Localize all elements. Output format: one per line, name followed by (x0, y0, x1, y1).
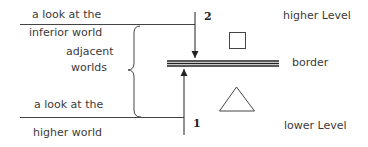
square-shape (230, 33, 246, 49)
label-border: border (292, 57, 328, 69)
triangle-shape (220, 87, 255, 111)
label-adjacent-bottom: worlds (71, 62, 107, 74)
diagram: a look at the inferior world adjacent wo… (0, 0, 368, 147)
label-look-inferior-top: a look at the (32, 9, 101, 21)
label-lower-level: lower Level (284, 120, 347, 132)
curly-brace (128, 26, 141, 117)
label-look-higher-bottom: higher world (33, 127, 102, 139)
arrow-up-number: 1 (193, 118, 201, 130)
label-look-higher-top: a look at the (34, 99, 103, 111)
arrow-down-head (192, 51, 199, 58)
label-look-inferior-bottom: inferior world (29, 27, 102, 39)
label-adjacent-top: adjacent (66, 46, 114, 58)
arrow-down-number: 2 (204, 11, 212, 23)
label-higher-level: higher Level (283, 10, 351, 22)
arrow-up-head (181, 69, 188, 76)
